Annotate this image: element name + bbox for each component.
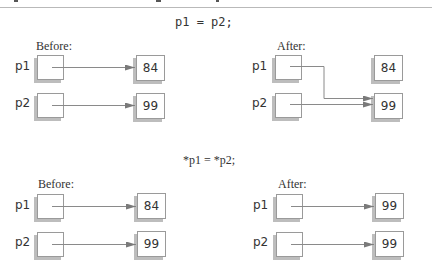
statement-pointer-assign: p1 = p2; — [175, 15, 233, 29]
pointer-box-p1 — [37, 55, 64, 80]
value-box: 99 — [375, 231, 404, 257]
cropped-text-fragment — [156, 0, 161, 2]
pointer-box-p1 — [37, 194, 64, 219]
cropped-text-fragment — [14, 0, 18, 2]
before-label: Before: — [38, 177, 74, 192]
pointer-label-p1: p1 — [15, 59, 30, 73]
pointer-box-p2 — [275, 93, 302, 118]
top-divider — [0, 7, 432, 8]
after-label: After: — [278, 177, 307, 192]
statement-value-assign: *p1 = *p2; — [183, 153, 235, 168]
pointer-label-p1: p1 — [253, 198, 268, 212]
pointer-label-p2: p2 — [253, 235, 268, 249]
pointer-box-p1 — [275, 55, 302, 80]
value-box: 99 — [137, 231, 166, 257]
value-box: 84 — [136, 55, 165, 81]
pointer-box-p2 — [276, 232, 303, 257]
pointer-label-p1: p1 — [252, 59, 267, 73]
before-label: Before: — [36, 39, 72, 54]
pointer-label-p2: p2 — [15, 96, 30, 110]
pointer-label-p2: p2 — [252, 96, 267, 110]
cropped-text-fragment — [216, 0, 219, 2]
pointer-box-p2 — [37, 232, 64, 257]
value-box: 99 — [136, 93, 165, 119]
value-box: 99 — [375, 193, 404, 219]
pointer-label-p2: p2 — [15, 235, 30, 249]
value-box: 84 — [374, 55, 403, 81]
pointer-box-p1 — [276, 194, 303, 219]
after-label: After: — [277, 39, 306, 54]
value-box: 84 — [137, 193, 166, 219]
pointer-box-p2 — [37, 93, 64, 118]
value-box: 99 — [374, 93, 403, 119]
arrow-icon — [290, 67, 373, 99]
pointer-label-p1: p1 — [15, 198, 30, 212]
